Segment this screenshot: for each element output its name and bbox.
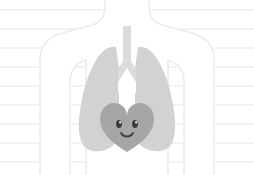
- heart-right-eye-highlight-icon: [135, 121, 137, 123]
- heart-left-eye-highlight-icon: [119, 121, 121, 123]
- heart-right-eye-icon: [132, 120, 138, 128]
- anatomy-canvas: [0, 0, 254, 175]
- anatomy-illustration: Anatomical torso with lungs and smiling …: [0, 0, 254, 175]
- heart-left-eye-icon: [116, 120, 122, 128]
- trachea-path: [123, 26, 131, 63]
